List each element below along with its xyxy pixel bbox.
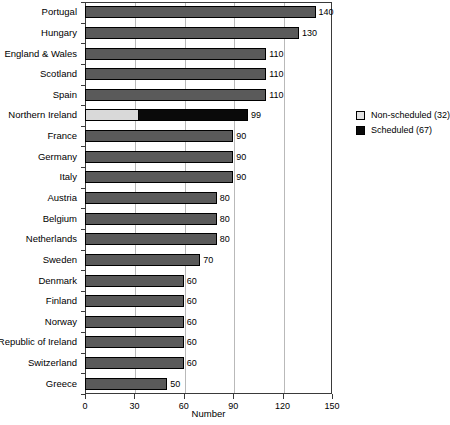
- bar: [85, 6, 316, 18]
- legend-swatch-dark: [356, 126, 365, 135]
- y-axis-label-greece: Greece: [46, 379, 77, 389]
- bar-value-label: 110: [266, 49, 283, 58]
- bar-segment-non-scheduled: [85, 109, 138, 121]
- bar-value-label: 60: [184, 317, 197, 326]
- bar-row: 60: [85, 275, 332, 287]
- bar: [85, 130, 233, 142]
- bar: [85, 192, 217, 204]
- bar-value-label: 90: [233, 173, 246, 182]
- bar-group: [85, 27, 299, 39]
- bar-value-label: 99: [248, 111, 261, 120]
- bar-value-label: 80: [217, 214, 230, 223]
- y-axis-label-northern-ireland: Northern Ireland: [8, 110, 77, 120]
- y-axis-category-labels: PortugalHungaryEngland & WalesScotlandSp…: [0, 2, 85, 394]
- legend-label: Scheduled (67): [371, 125, 432, 135]
- y-axis-label-sweden: Sweden: [43, 255, 77, 265]
- y-axis-label-france: France: [47, 131, 77, 141]
- x-axis-tick-60: [184, 394, 185, 399]
- y-axis-label-denmark: Denmark: [38, 276, 77, 286]
- bar-row: 110: [85, 48, 332, 60]
- bar-group: [85, 316, 184, 328]
- bar-group: [85, 109, 248, 121]
- bar-value-label: 130: [299, 28, 317, 37]
- bar-group: [85, 48, 266, 60]
- bar: [85, 254, 200, 266]
- bar: [85, 357, 184, 369]
- y-axis-label-finland: Finland: [46, 296, 77, 306]
- y-axis-label-spain: Spain: [53, 90, 77, 100]
- bar-value-label: 70: [200, 255, 213, 264]
- bar-group: [85, 295, 184, 307]
- bar-group: [85, 6, 316, 18]
- y-axis-label-belgium: Belgium: [43, 214, 77, 224]
- legend-item: Non-scheduled (32): [356, 110, 448, 120]
- bar: [85, 295, 184, 307]
- bar: [85, 233, 217, 245]
- bar-group: [85, 378, 167, 390]
- y-axis-label-italy: Italy: [60, 172, 77, 182]
- bar-value-label: 60: [184, 338, 197, 347]
- bar: [85, 68, 266, 80]
- bar-value-label: 60: [184, 276, 197, 285]
- bar-group: [85, 151, 233, 163]
- bar-group: [85, 171, 233, 183]
- bar-value-label: 80: [217, 235, 230, 244]
- bar-row: 80: [85, 213, 332, 225]
- bar-group: [85, 68, 266, 80]
- y-axis-label-netherlands: Netherlands: [26, 234, 77, 244]
- x-axis-title: Number: [85, 408, 332, 419]
- legend-swatch-light: [356, 111, 365, 120]
- x-axis-tick-30: [134, 394, 135, 399]
- bar-group: [85, 89, 266, 101]
- bar-group: [85, 233, 217, 245]
- bar-row: 99: [85, 109, 332, 121]
- bar: [85, 48, 266, 60]
- y-axis-label-portugal: Portugal: [42, 7, 77, 17]
- y-axis-label-norway: Norway: [45, 317, 77, 327]
- bar: [85, 213, 217, 225]
- bar-row: 90: [85, 130, 332, 142]
- bar-rows: 1401301101101109990909080808070606060606…: [85, 2, 332, 394]
- bar-row: 110: [85, 68, 332, 80]
- legend-label: Non-scheduled (32): [371, 110, 450, 120]
- bar-row: 90: [85, 171, 332, 183]
- x-axis-tick-90: [233, 394, 234, 399]
- bar-group: [85, 275, 184, 287]
- bar-row: 140: [85, 6, 332, 18]
- chart-legend: Non-scheduled (32)Scheduled (67): [356, 110, 448, 140]
- bar-value-label: 140: [316, 8, 334, 17]
- bar-group: [85, 357, 184, 369]
- bar-group: [85, 254, 200, 266]
- y-axis-label-scotland: Scotland: [40, 69, 77, 79]
- bar: [85, 316, 184, 328]
- bar-row: 60: [85, 295, 332, 307]
- bar-row: 80: [85, 192, 332, 204]
- bar: [85, 27, 299, 39]
- bar-row: 110: [85, 89, 332, 101]
- y-axis-label-england-wales: England & Wales: [4, 49, 77, 59]
- bar-value-label: 90: [233, 132, 246, 141]
- bar-value-label: 60: [184, 297, 197, 306]
- y-axis-label-switzerland: Switzerland: [28, 358, 77, 368]
- bar-row: 130: [85, 27, 332, 39]
- bar-row: 60: [85, 336, 332, 348]
- x-axis-tick-0: [85, 394, 86, 399]
- bar-group: [85, 130, 233, 142]
- bar-group: [85, 192, 217, 204]
- bar: [85, 151, 233, 163]
- bar-row: 50: [85, 378, 332, 390]
- bar-chart: PortugalHungaryEngland & WalesScotlandSp…: [0, 0, 450, 425]
- bar-value-label: 90: [233, 152, 246, 161]
- x-axis-tick-120: [283, 394, 284, 399]
- bar: [85, 378, 167, 390]
- bar-row: 80: [85, 233, 332, 245]
- bar-segment-scheduled: [138, 109, 248, 121]
- bar-row: 70: [85, 254, 332, 266]
- bar-value-label: 60: [184, 359, 197, 368]
- bar-value-label: 110: [266, 90, 283, 99]
- legend-item: Scheduled (67): [356, 125, 448, 135]
- bar: [85, 336, 184, 348]
- y-axis-label-hungary: Hungary: [41, 28, 77, 38]
- bar: [85, 89, 266, 101]
- y-axis-label-germany: Germany: [38, 152, 77, 162]
